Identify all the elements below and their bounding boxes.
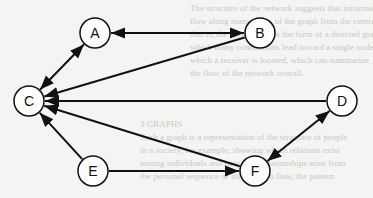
edge-a-c <box>40 44 84 89</box>
node-a: A <box>80 18 110 48</box>
edge-d-f <box>267 111 329 161</box>
node-f: F <box>240 156 270 186</box>
edge-f-c <box>44 106 239 167</box>
node-label: F <box>251 163 260 179</box>
edges <box>40 33 330 171</box>
node-label: A <box>90 25 100 41</box>
node-label: E <box>88 163 97 179</box>
node-label: D <box>337 93 347 109</box>
node-label: B <box>255 25 264 41</box>
edge-b-c <box>44 38 244 97</box>
node-d: D <box>327 86 357 116</box>
node-label: C <box>24 93 34 109</box>
edge-e-c <box>40 113 82 159</box>
node-e: E <box>78 156 108 186</box>
node-b: B <box>245 18 275 48</box>
node-c: C <box>14 86 44 116</box>
graph-diagram: ABCDEF <box>0 0 373 198</box>
